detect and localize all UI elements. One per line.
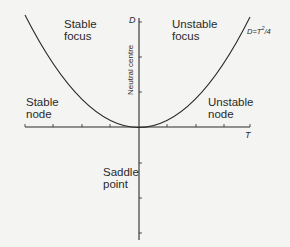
- saddle-point-label: Saddle point: [103, 166, 139, 190]
- unstable-node-label: Unstable node: [208, 96, 253, 120]
- equation-suffix: /4: [264, 27, 270, 36]
- plot-canvas: [0, 0, 290, 247]
- stable-node-label: Stable node: [26, 96, 59, 120]
- neutral-centre-label: Neutral centre: [126, 45, 135, 95]
- stable-focus-label: Stable focus: [64, 18, 97, 42]
- stability-diagram: D T D=T2/4 Neutral centre Stable focus U…: [0, 0, 290, 247]
- unstable-focus-label: Unstable focus: [172, 18, 217, 42]
- t-axis-label: T: [245, 130, 251, 140]
- curve-equation-label: D=T2/4: [247, 25, 271, 36]
- equation-prefix: D=T: [247, 27, 261, 36]
- d-axis-label: D: [129, 15, 136, 25]
